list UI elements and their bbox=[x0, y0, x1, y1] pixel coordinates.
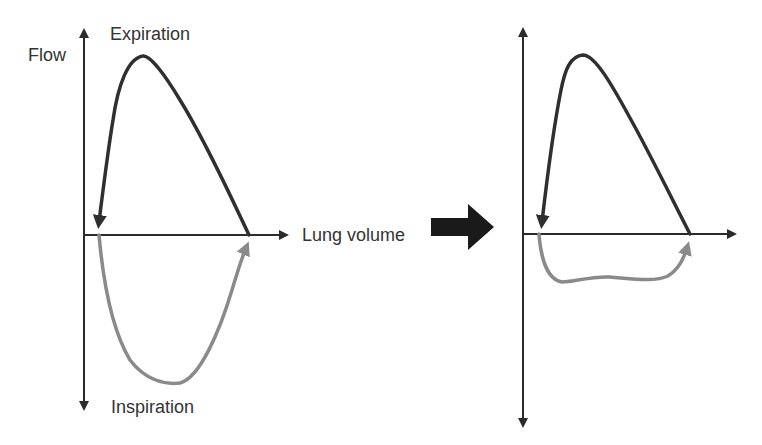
lung-volume-axis-label: Lung volume bbox=[302, 226, 405, 244]
left-inspiration-curve bbox=[99, 235, 246, 383]
right-flow-volume-loop bbox=[523, 32, 732, 423]
expiration-label: Expiration bbox=[110, 25, 190, 43]
inspiration-label: Inspiration bbox=[111, 398, 194, 416]
diagram-canvas bbox=[0, 0, 762, 445]
right-expiration-curve bbox=[542, 55, 690, 234]
right-block-arrow-icon bbox=[431, 204, 494, 250]
left-flow-volume-loop bbox=[84, 33, 284, 406]
left-expiration-curve bbox=[99, 56, 249, 235]
right-inspiration-curve bbox=[539, 234, 687, 282]
flow-axis-label: Flow bbox=[28, 46, 66, 64]
